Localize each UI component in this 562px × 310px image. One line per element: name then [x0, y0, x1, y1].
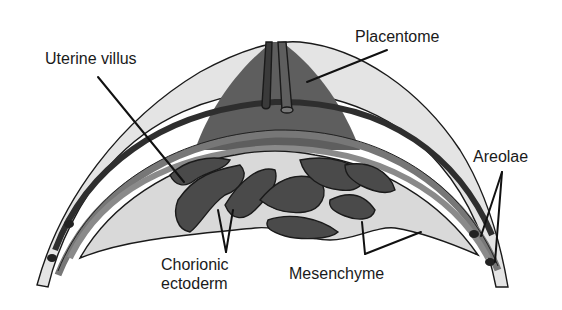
label-placentome: Placentome — [355, 28, 440, 45]
label-chorionic-line2: ectoderm — [161, 275, 228, 292]
label-mesenchyme: Mesenchyme — [289, 265, 384, 282]
leader-mesenchyme-2 — [365, 232, 421, 254]
label-areolae: Areolae — [473, 148, 528, 165]
label-chorionic-line1: Chorionic — [161, 256, 229, 273]
label-uterine-villus: Uterine villus — [45, 50, 137, 67]
placentome-diagram: Uterine villus Placentome Areolae Chorio… — [0, 0, 562, 310]
